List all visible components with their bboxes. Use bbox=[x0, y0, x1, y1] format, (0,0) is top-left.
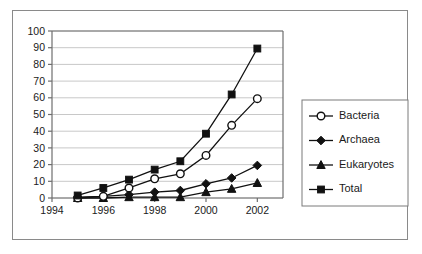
marker-open-circle bbox=[317, 112, 325, 120]
chart-legend: BacteriaArchaeaEukaryotesTotal bbox=[302, 100, 408, 206]
marker-filled-diamond bbox=[176, 186, 185, 195]
x-axis-tick-label: 2000 bbox=[194, 204, 218, 216]
marker-filled-diamond bbox=[150, 188, 159, 197]
legend-item-label: Total bbox=[339, 182, 362, 194]
y-axis-tick-labels: 0102030405060708090100 bbox=[27, 25, 45, 204]
marker-filled-square bbox=[318, 186, 325, 193]
y-axis-tick-label: 50 bbox=[33, 108, 45, 120]
y-axis-tick-label: 80 bbox=[33, 58, 45, 70]
x-axis-tick-label: 2002 bbox=[246, 204, 270, 216]
marker-filled-square bbox=[100, 185, 107, 192]
y-axis-tick-label: 0 bbox=[39, 192, 45, 204]
marker-filled-square bbox=[254, 45, 261, 52]
legend-item-label: Bacteria bbox=[339, 109, 380, 121]
y-axis-tick-label: 10 bbox=[33, 175, 45, 187]
marker-open-circle bbox=[125, 184, 133, 192]
marker-open-circle bbox=[254, 95, 262, 103]
line-chart: 0102030405060708090100 19941996199820002… bbox=[0, 0, 422, 254]
marker-open-circle bbox=[228, 122, 236, 130]
y-axis-tick-label: 40 bbox=[33, 125, 45, 137]
marker-filled-diamond bbox=[253, 161, 262, 170]
legend-item-label: Eukaryotes bbox=[339, 158, 395, 170]
marker-open-circle bbox=[151, 175, 159, 183]
legend-item-label: Archaea bbox=[339, 133, 381, 145]
marker-filled-square bbox=[228, 91, 235, 98]
y-axis-tick-label: 90 bbox=[33, 41, 45, 53]
marker-filled-square bbox=[151, 166, 158, 173]
marker-open-circle bbox=[100, 193, 108, 201]
marker-filled-square bbox=[203, 130, 210, 137]
marker-open-circle bbox=[202, 152, 210, 160]
marker-filled-square bbox=[126, 176, 133, 183]
chart-gridlines bbox=[48, 31, 283, 198]
x-axis-tick-label: 1998 bbox=[143, 204, 167, 216]
y-axis-tick-label: 60 bbox=[33, 91, 45, 103]
marker-open-circle bbox=[177, 170, 185, 178]
y-axis-tick-label: 20 bbox=[33, 158, 45, 170]
x-axis-tick-label: 1994 bbox=[40, 204, 64, 216]
y-axis-tick-label: 70 bbox=[33, 75, 45, 87]
marker-filled-square bbox=[74, 192, 81, 199]
marker-filled-triangle bbox=[253, 179, 261, 187]
data-series-layer bbox=[73, 45, 261, 202]
marker-filled-square bbox=[177, 158, 184, 165]
y-axis-tick-label: 30 bbox=[33, 142, 45, 154]
y-axis-tick-label: 100 bbox=[27, 25, 45, 37]
marker-filled-diamond bbox=[202, 180, 211, 189]
x-axis-tick-label: 1996 bbox=[92, 204, 116, 216]
